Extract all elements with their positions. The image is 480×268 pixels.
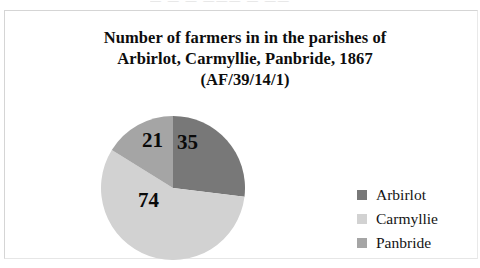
pie-slice-label-arbirlot: 35 [177, 132, 198, 153]
pie-chart [101, 116, 245, 260]
legend-item-arbirlot[interactable]: Arbirlot [357, 183, 438, 207]
chart-frame: Number of farmers in in the parishes of … [4, 10, 478, 259]
legend-label-carmyllie: Carmyllie [376, 211, 438, 227]
chart-title: Number of farmers in in the parishes of … [5, 27, 480, 90]
legend-item-carmyllie[interactable]: Carmyllie [357, 207, 438, 231]
legend-item-panbride[interactable]: Panbride [357, 231, 438, 255]
chart-title-line-3: (AF/39/14/1) [5, 69, 480, 90]
legend-label-arbirlot: Arbirlot [376, 187, 426, 203]
pie-slices [101, 116, 245, 260]
pie-slice-label-carmyllie: 74 [138, 190, 159, 211]
pie-slice-arbirlot[interactable] [173, 116, 245, 197]
legend-swatch-icon-arbirlot [357, 190, 367, 200]
legend-swatch-icon-carmyllie [357, 214, 367, 224]
legend-label-panbride: Panbride [376, 235, 431, 251]
legend-swatch-icon-panbride [357, 238, 367, 248]
chart-title-line-2: Arbirlot, Carmyllie, Panbride, 1867 [5, 48, 480, 69]
pie-slice-label-panbride: 21 [142, 130, 163, 151]
plot-area: 35 74 21 [101, 116, 245, 260]
chart-title-line-1: Number of farmers in in the parishes of [5, 27, 480, 48]
clipped-page-text-remnant: — — — ——— — —— [150, 0, 480, 4]
figure-screenshot: — — — ——— — —— Number of farmers in in t… [0, 0, 480, 268]
chart-legend: Arbirlot Carmyllie Panbride [357, 183, 438, 255]
